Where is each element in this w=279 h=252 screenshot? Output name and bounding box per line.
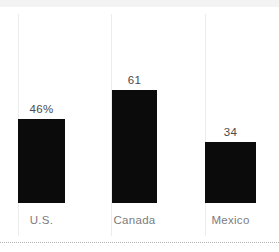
plot-area: 46% U.S. 61 Canada 34 Mexico bbox=[0, 7, 279, 236]
bar-value-label-canada: 61 bbox=[112, 75, 157, 87]
bar-us bbox=[18, 119, 65, 203]
bar-group-canada: 61 Canada bbox=[112, 7, 157, 236]
bar-chart-figure: 46% U.S. 61 Canada 34 Mexico bbox=[0, 0, 279, 252]
category-label-mexico: Mexico bbox=[211, 215, 249, 227]
bar-canada bbox=[112, 90, 157, 203]
category-label-us: U.S. bbox=[30, 215, 54, 227]
bar-value-label-us: 46% bbox=[18, 104, 65, 116]
bar-value-label-mexico: 34 bbox=[205, 127, 256, 139]
category-label-canada: Canada bbox=[113, 215, 155, 227]
bar-mexico bbox=[205, 142, 256, 203]
bar-group-mexico: 34 Mexico bbox=[205, 7, 256, 236]
top-margin-band bbox=[0, 0, 279, 7]
footer-dotted-rule bbox=[0, 242, 279, 243]
bar-group-us: 46% U.S. bbox=[18, 7, 65, 236]
